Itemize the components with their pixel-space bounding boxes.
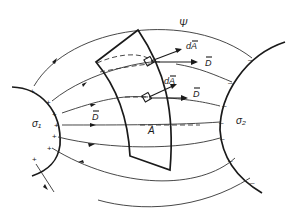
svg-text:+: +: [46, 98, 51, 107]
dA-lower-label: dA: [164, 76, 175, 86]
sigma1-label: σ₁: [32, 118, 41, 129]
D-left-label: D: [92, 112, 99, 122]
svg-text:–: –: [220, 134, 225, 143]
conductor-right: [220, 42, 285, 193]
svg-text:+: +: [54, 121, 59, 130]
svg-text:+: +: [52, 110, 57, 119]
surface-A-label: A: [147, 125, 155, 136]
electric-flux-diagram: Ψ dA D dA D D A σ₁ σ₂ + + + + + + + – – …: [0, 0, 295, 213]
svg-text:–: –: [219, 118, 224, 127]
diagram-canvas: Ψ dA D dA D D A σ₁ σ₂ + + + + + + + – – …: [0, 0, 295, 213]
svg-text:–: –: [228, 78, 233, 87]
svg-text:–: –: [248, 55, 253, 64]
svg-text:–: –: [250, 178, 255, 187]
D-upper-label: D: [205, 58, 212, 68]
svg-text:+: +: [52, 132, 57, 141]
dA-upper-label: dA: [186, 41, 197, 51]
sigma2-label: σ₂: [236, 115, 246, 126]
svg-text:+: +: [32, 155, 37, 164]
field-arrows: [43, 58, 96, 190]
svg-text:+: +: [30, 87, 35, 96]
svg-text:+: +: [47, 144, 52, 153]
svg-text:–: –: [222, 101, 227, 110]
flux-label: Ψ: [179, 18, 188, 29]
D-lower-label: D: [193, 89, 200, 99]
svg-text:–: –: [228, 156, 233, 165]
